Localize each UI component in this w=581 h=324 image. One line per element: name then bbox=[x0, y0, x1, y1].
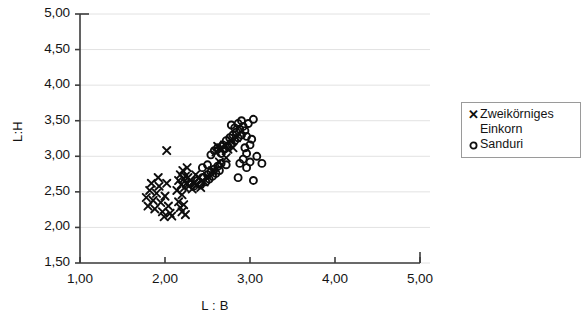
legend-marker-circle-icon bbox=[466, 137, 480, 152]
y-tick-label: 2,00 bbox=[18, 218, 70, 233]
data-point-circle bbox=[258, 160, 265, 167]
x-tick-label: 1,00 bbox=[50, 271, 110, 286]
y-tick-label: 4,50 bbox=[18, 41, 70, 56]
y-tick-label: 2,50 bbox=[18, 183, 70, 198]
data-point-x bbox=[163, 147, 170, 154]
x-tick-label: 5,00 bbox=[390, 271, 450, 286]
legend-item-sanduri: Sanduri bbox=[462, 137, 580, 152]
data-point-x bbox=[153, 190, 160, 197]
data-point-x bbox=[163, 180, 170, 187]
data-point-x bbox=[165, 202, 172, 209]
data-point-x bbox=[146, 187, 153, 194]
x-axis-title: L : B bbox=[0, 298, 430, 313]
x-tick-label: 3,00 bbox=[220, 271, 280, 286]
legend-label-zweikoerniges-einkorn: Zweikörniges Einkorn bbox=[480, 107, 554, 137]
data-point-x bbox=[150, 197, 157, 204]
y-tick-label: 3,00 bbox=[18, 147, 70, 162]
data-point-x bbox=[182, 211, 189, 218]
data-point-x bbox=[168, 212, 175, 219]
y-tick-label: 4,00 bbox=[18, 76, 70, 91]
data-point-circle bbox=[247, 158, 254, 165]
x-tick-label: 2,00 bbox=[135, 271, 195, 286]
y-tick-label: 3,50 bbox=[18, 112, 70, 127]
legend-marker-x-icon: ✕ bbox=[466, 107, 480, 122]
data-point-x bbox=[155, 174, 162, 181]
chart-legend: ✕ Zweikörniges Einkorn Sanduri bbox=[461, 102, 581, 158]
legend-item-zweikoerniges-einkorn: ✕ Zweikörniges Einkorn bbox=[462, 107, 580, 137]
data-point-x bbox=[143, 194, 150, 201]
legend-label-sanduri: Sanduri bbox=[480, 137, 523, 152]
y-tick-label: 1,50 bbox=[18, 254, 70, 269]
series-sanduri-points bbox=[187, 116, 265, 190]
x-tick-label: 4,00 bbox=[305, 271, 365, 286]
y-axis-title: L:H bbox=[10, 117, 25, 147]
y-tick-label: 5,00 bbox=[18, 5, 70, 20]
data-point-circle bbox=[235, 174, 242, 181]
data-point-x bbox=[155, 183, 162, 190]
data-point-circle bbox=[250, 177, 257, 184]
